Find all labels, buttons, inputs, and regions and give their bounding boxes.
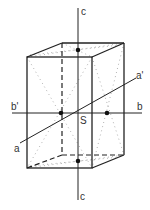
bottom-face-center-dot	[76, 159, 81, 164]
axis-points	[59, 48, 110, 164]
prism-edges	[27, 43, 124, 168]
label-center-s: S	[80, 115, 87, 126]
label-b: b	[137, 101, 143, 112]
label-a: a	[14, 143, 20, 154]
axes	[12, 8, 142, 200]
label-b-prime: b'	[11, 101, 19, 112]
dotted-diagonals	[27, 43, 124, 168]
crystal-prism-diagram: c c b' b a a' S	[0, 0, 150, 210]
left-face-dot	[59, 111, 64, 116]
top-face-center-dot	[76, 48, 81, 53]
label-c-bottom: c	[80, 191, 85, 202]
hidden-edges	[27, 43, 124, 168]
label-c-top: c	[81, 6, 86, 17]
right-face-dot	[105, 111, 110, 116]
label-a-prime: a'	[136, 70, 144, 81]
